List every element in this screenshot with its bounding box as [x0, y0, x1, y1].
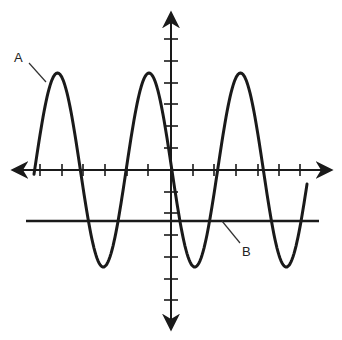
leader-line-a: [29, 63, 46, 82]
diagram-canvas: A B: [0, 0, 342, 340]
leader-line-b: [222, 221, 240, 243]
label-b: B: [242, 244, 251, 259]
sine-wave-diagram: A B: [0, 0, 342, 340]
label-a: A: [14, 50, 23, 65]
